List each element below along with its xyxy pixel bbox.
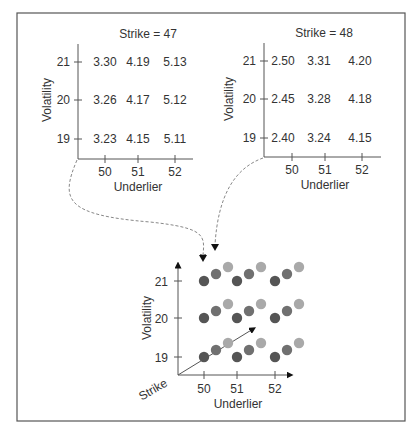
grid-point <box>282 345 292 355</box>
x-tick-label: 51 <box>318 163 332 177</box>
grid-point <box>282 306 292 316</box>
cell-value: 4.15 <box>126 132 150 146</box>
cell-value: 4.20 <box>348 54 372 68</box>
y-axis-label: Volatility <box>140 296 154 340</box>
grid-point <box>199 352 209 362</box>
cell-value: 2.40 <box>271 131 295 145</box>
grid-point <box>256 262 266 272</box>
cell-value: 4.17 <box>126 93 150 107</box>
y-tick-label: 19 <box>57 132 71 146</box>
grid-point <box>232 352 242 362</box>
x-axis-label: Underlier <box>214 397 263 411</box>
grid-point <box>244 345 254 355</box>
cell-value: 2.50 <box>271 54 295 68</box>
grid-point <box>199 276 209 286</box>
grid-point <box>256 299 266 309</box>
panel-title: Strike = 47 <box>119 27 177 41</box>
x-tick-label: 51 <box>230 382 244 396</box>
y-tick-label: 21 <box>155 275 169 289</box>
panel-strike-48: Strike = 48 21 20 19 50 51 52 Underlier … <box>222 26 381 192</box>
cell-value: 4.18 <box>348 92 372 106</box>
figure-border <box>17 13 405 421</box>
cell-value: 5.13 <box>163 55 187 69</box>
grid-point <box>294 299 304 309</box>
y-axis-label: Volatility <box>222 77 236 121</box>
cell-value: 5.12 <box>163 93 187 107</box>
diagram-canvas: Strike = 47 21 20 19 50 51 52 Underlier … <box>0 0 415 434</box>
grid-point <box>232 276 242 286</box>
grid-point <box>294 338 304 348</box>
x-axis-label: Underlier <box>114 180 163 194</box>
cell-value: 3.26 <box>93 93 117 107</box>
y-tick-label: 19 <box>155 351 169 365</box>
cube-panel: 21 20 19 50 51 52 Underlier Volatility S… <box>136 262 304 411</box>
cell-value: 3.28 <box>307 92 331 106</box>
grid-point <box>270 313 280 323</box>
arrowhead-icon <box>199 255 207 262</box>
y-tick-label: 20 <box>155 312 169 326</box>
x-tick-label: 50 <box>98 165 112 179</box>
cell-value: 3.31 <box>307 54 331 68</box>
x-tick-label: 52 <box>168 165 182 179</box>
cell-value: 3.24 <box>307 131 331 145</box>
y-tick-label: 20 <box>243 92 257 106</box>
grid-point <box>270 276 280 286</box>
cell-value: 4.15 <box>348 131 372 145</box>
x-tick-label: 50 <box>197 382 211 396</box>
grid-point <box>211 306 221 316</box>
cell-value: 5.11 <box>164 132 187 146</box>
grid-point <box>282 269 292 279</box>
arrowhead-icon <box>211 244 219 251</box>
grid-point <box>223 262 233 272</box>
y-axis-label: Volatility <box>40 78 54 122</box>
cell-value: 2.45 <box>271 92 295 106</box>
y-tick-label: 21 <box>243 54 257 68</box>
grid-point <box>211 269 221 279</box>
panel-title: Strike = 48 <box>295 26 353 40</box>
x-axis-label: Underlier <box>301 178 350 192</box>
grid-point <box>211 345 221 355</box>
z-axis-label: Strike <box>136 376 170 404</box>
grid-point <box>256 338 266 348</box>
grid-point <box>199 313 209 323</box>
x-tick-label: 52 <box>268 382 282 396</box>
grid-point <box>223 299 233 309</box>
x-tick-label: 51 <box>131 165 145 179</box>
grid-point <box>232 313 242 323</box>
cell-value: 3.23 <box>93 132 117 146</box>
grid-point <box>244 269 254 279</box>
y-tick-label: 19 <box>243 131 257 145</box>
x-tick-label: 52 <box>355 163 369 177</box>
panel-strike-47: Strike = 47 21 20 19 50 51 52 Underlier … <box>40 27 193 194</box>
y-tick-label: 20 <box>57 93 71 107</box>
connector-strike-48 <box>215 158 263 245</box>
cell-value: 3.30 <box>93 55 117 69</box>
x-tick-label: 50 <box>285 163 299 177</box>
grid-point <box>223 338 233 348</box>
grid-point <box>244 306 254 316</box>
grid-points <box>199 262 304 362</box>
grid-point <box>270 352 280 362</box>
grid-point <box>294 262 304 272</box>
cell-value: 4.19 <box>126 55 150 69</box>
y-tick-label: 21 <box>57 55 71 69</box>
